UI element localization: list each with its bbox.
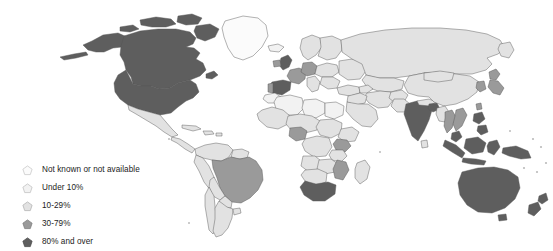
- legend-item-not-known[interactable]: Not known or not available: [22, 161, 202, 179]
- map-legend: Not known or not available Under 10% 10-…: [22, 161, 202, 251]
- region-portugal: [268, 83, 273, 93]
- pentagon-icon: [22, 219, 33, 230]
- legend-item-80-and-over[interactable]: 80% and over: [22, 233, 202, 251]
- legend-label: Not known or not available: [42, 166, 140, 174]
- pentagon-icon: [22, 183, 33, 194]
- pentagon-icon: [22, 237, 33, 248]
- island-dot: [379, 151, 381, 153]
- region-puerto-rico: [216, 133, 222, 136]
- region-russia: [341, 28, 505, 78]
- legend-label: 30-79%: [42, 220, 71, 228]
- island-dot: [536, 171, 538, 173]
- pentagon-icon: [22, 165, 33, 176]
- legend-item-under-10[interactable]: Under 10%: [22, 179, 202, 197]
- legend-label: Under 10%: [42, 184, 83, 192]
- region-ireland: [273, 60, 281, 67]
- region-taiwan: [476, 103, 482, 110]
- region-sri-lanka: [421, 140, 428, 148]
- legend-item-30-79[interactable]: 30-79%: [22, 215, 202, 233]
- island-dot: [168, 138, 170, 140]
- region-hispaniola: [203, 131, 214, 135]
- legend-item-10-29[interactable]: 10-29%: [22, 197, 202, 215]
- legend-label: 10-29%: [42, 202, 71, 210]
- region-mongolia: [424, 71, 454, 82]
- island-dot: [509, 130, 511, 132]
- island-dot: [545, 162, 547, 164]
- island-dot: [532, 138, 534, 140]
- pentagon-icon: [22, 201, 33, 212]
- region-tasmania: [498, 214, 507, 221]
- island-dot: [523, 167, 525, 169]
- island-dot: [540, 146, 542, 148]
- legend-label: 80% and over: [42, 238, 93, 246]
